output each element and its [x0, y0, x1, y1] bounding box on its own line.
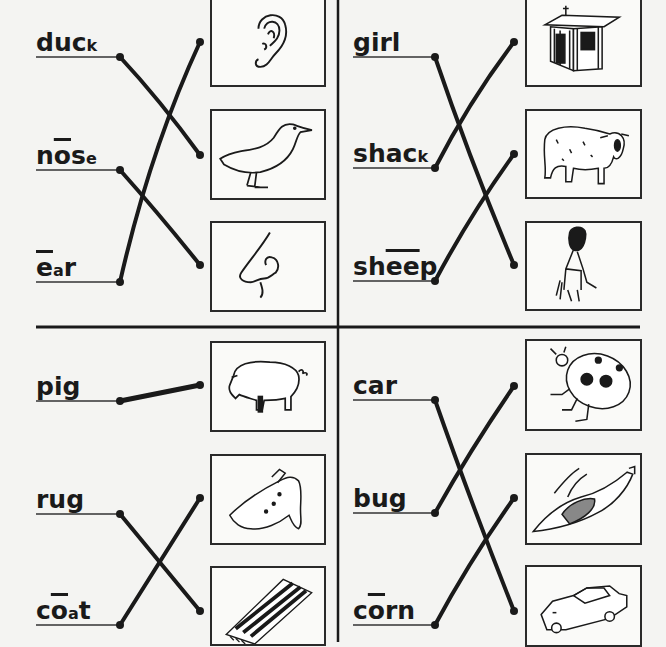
- shack-icon: [527, 0, 640, 85]
- sheep-icon: [527, 111, 640, 197]
- word-shack: shack: [353, 141, 428, 166]
- match-line-bug[interactable]: [435, 386, 514, 513]
- picture-rug[interactable]: [210, 566, 326, 646]
- word-sheep: sheep: [353, 254, 438, 279]
- nose-icon: [212, 223, 324, 310]
- match-line-girl[interactable]: [435, 57, 514, 265]
- picture-car[interactable]: [525, 565, 642, 647]
- girl-icon: [527, 223, 640, 309]
- match-line-pig[interactable]: [120, 385, 200, 401]
- word-rug: rug: [36, 487, 84, 512]
- picture-duck[interactable]: [210, 109, 326, 200]
- ear-icon: [212, 0, 324, 85]
- picture-corn[interactable]: [525, 453, 642, 545]
- word-car: car: [353, 373, 397, 398]
- match-line-nose[interactable]: [120, 170, 200, 265]
- rug-icon: [212, 568, 324, 644]
- picture-ear[interactable]: [210, 0, 326, 87]
- match-line-corn[interactable]: [435, 498, 514, 625]
- match-line-shack[interactable]: [435, 42, 514, 168]
- picture-bug[interactable]: [525, 339, 642, 431]
- word-bug: bug: [353, 486, 407, 511]
- duck-icon: [212, 111, 324, 198]
- match-line-coat[interactable]: [120, 498, 200, 625]
- word-duck: duck: [36, 30, 97, 55]
- picture-girl[interactable]: [525, 221, 642, 311]
- word-girl: girl: [353, 30, 400, 55]
- pig-icon: [212, 343, 324, 430]
- picture-nose[interactable]: [210, 221, 326, 312]
- ladybug-icon: [527, 341, 640, 429]
- corn-icon: [527, 455, 640, 543]
- coat-icon: [212, 456, 324, 543]
- word-corn: corn: [353, 598, 415, 623]
- word-coat: coat: [36, 598, 91, 623]
- match-line-sheep[interactable]: [435, 154, 514, 281]
- match-line-car[interactable]: [435, 400, 514, 611]
- match-line-ear[interactable]: [120, 42, 200, 282]
- word-nose: nose: [36, 143, 97, 168]
- word-ear: ear: [36, 255, 76, 280]
- picture-pig[interactable]: [210, 341, 326, 432]
- picture-shack[interactable]: [525, 0, 642, 87]
- car-icon: [527, 567, 640, 645]
- picture-sheep[interactable]: [525, 109, 642, 199]
- picture-coat[interactable]: [210, 454, 326, 545]
- word-pig: pig: [36, 374, 80, 399]
